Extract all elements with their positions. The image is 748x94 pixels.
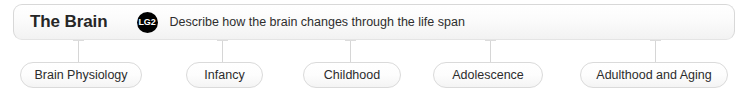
- connector-line: [78, 40, 79, 62]
- concept-map-diagram: The Brain LG2 Describe how the brain cha…: [0, 0, 748, 94]
- connector-line: [222, 40, 223, 62]
- topic-node[interactable]: Brain Physiology: [20, 62, 142, 88]
- topic-node[interactable]: Adulthood and Aging: [580, 62, 728, 88]
- connector-line: [655, 40, 656, 62]
- connector-line: [490, 40, 491, 62]
- topic-node[interactable]: Childhood: [303, 62, 401, 88]
- learning-goal-badge: LG2: [137, 12, 158, 33]
- learning-goal-description: Describe how the brain changes through t…: [170, 15, 465, 29]
- topic-header-bar: The Brain LG2 Describe how the brain cha…: [13, 4, 735, 40]
- topic-node-label: Brain Physiology: [34, 68, 127, 82]
- topic-node[interactable]: Adolescence: [433, 62, 543, 88]
- page-title: The Brain: [30, 12, 108, 32]
- topic-node-label: Infancy: [204, 68, 244, 82]
- topic-node-label: Adolescence: [452, 68, 524, 82]
- topic-node-label: Childhood: [324, 68, 380, 82]
- topic-node-label: Adulthood and Aging: [596, 68, 711, 82]
- topic-node[interactable]: Infancy: [186, 62, 263, 88]
- connector-line: [350, 40, 351, 62]
